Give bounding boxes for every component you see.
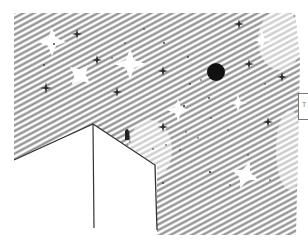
edge-box-label: T: [302, 101, 306, 109]
edge-box: T: [298, 93, 308, 120]
sketch-canvas: [0, 0, 308, 243]
moon: [207, 63, 225, 81]
